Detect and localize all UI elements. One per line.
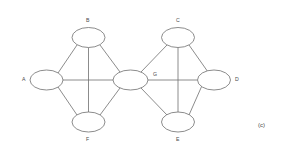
node-a[interactable] bbox=[30, 70, 63, 90]
node-label-a: A bbox=[22, 77, 26, 82]
node-label-f: F bbox=[86, 137, 89, 142]
graph-canvas bbox=[0, 0, 282, 154]
figure-caption: (c) bbox=[258, 122, 265, 128]
edge-g-c bbox=[141, 45, 167, 72]
node-c[interactable] bbox=[162, 28, 195, 48]
node-f[interactable] bbox=[72, 112, 105, 132]
edge-b-g bbox=[100, 45, 120, 72]
node-label-d: D bbox=[235, 77, 239, 82]
node-d[interactable] bbox=[198, 70, 231, 90]
node-label-e: E bbox=[176, 137, 180, 142]
edge-a-f bbox=[58, 87, 77, 115]
node-b[interactable] bbox=[72, 28, 105, 48]
node-label-c: C bbox=[176, 18, 180, 23]
figure-container: ABCDEFG (c) bbox=[0, 0, 282, 154]
edge-a-b bbox=[58, 45, 77, 73]
node-label-g: G bbox=[153, 72, 157, 77]
node-g[interactable] bbox=[113, 70, 148, 90]
edge-c-d bbox=[189, 45, 208, 72]
node-label-b: B bbox=[86, 18, 90, 23]
edge-f-g bbox=[100, 88, 120, 115]
edge-g-e bbox=[141, 88, 167, 115]
node-e[interactable] bbox=[162, 112, 195, 132]
nodes-group bbox=[30, 28, 231, 133]
